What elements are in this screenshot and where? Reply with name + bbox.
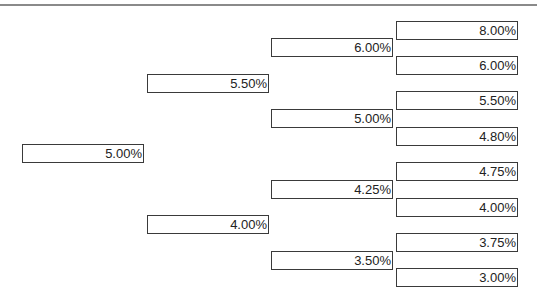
interest-rate-tree: 5.00% 5.50% 4.00% 6.00% 5.00% 4.25% 3.50… — [0, 0, 537, 305]
node-step1-up: 5.50% — [147, 74, 269, 93]
node-step2-4: 3.50% — [271, 251, 393, 270]
node-step3-7: 3.75% — [396, 233, 518, 252]
node-step3-2: 6.00% — [396, 56, 518, 75]
node-step3-8: 3.00% — [396, 268, 518, 287]
node-step3-5: 4.75% — [396, 162, 518, 181]
node-step2-1: 6.00% — [271, 38, 393, 57]
node-step1-down: 4.00% — [147, 215, 269, 234]
node-step3-1: 8.00% — [396, 21, 518, 40]
node-step2-2: 5.00% — [271, 109, 393, 128]
node-step0-1: 5.00% — [22, 144, 144, 163]
node-step2-3: 4.25% — [271, 180, 393, 199]
node-step3-3: 5.50% — [396, 91, 518, 110]
node-step3-6: 4.00% — [396, 198, 518, 217]
node-step3-4: 4.80% — [396, 127, 518, 146]
